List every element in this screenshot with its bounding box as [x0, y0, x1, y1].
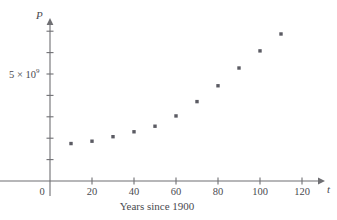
x-axis-arrow-icon	[318, 178, 325, 185]
data-point-group	[69, 32, 282, 145]
data-point	[195, 100, 198, 103]
x-tick-label-120: 120	[288, 187, 316, 198]
y-tick-label-exponent: 9	[36, 67, 40, 75]
y-tick-label-5e9: 5 × 109	[9, 68, 39, 80]
data-point	[153, 125, 156, 128]
x-axis-caption: Years since 1900	[77, 201, 237, 212]
y-tick-label-mantissa: 5 × 10	[9, 69, 36, 80]
x-axis-label: t	[327, 184, 330, 195]
x-tick-label-40: 40	[120, 187, 148, 198]
y-axis-arrow-icon	[47, 18, 54, 25]
population-scatter-figure: P t 0 5 × 109 20 40 60 80 100 120 Years …	[0, 0, 337, 220]
x-tick-label-20: 20	[78, 187, 106, 198]
data-point	[258, 49, 261, 52]
data-point	[237, 66, 240, 69]
data-point	[111, 135, 114, 138]
data-point	[279, 32, 282, 35]
data-point	[69, 142, 72, 145]
data-point	[90, 140, 93, 143]
origin-label: 0	[36, 187, 48, 198]
x-tick-label-80: 80	[204, 187, 232, 198]
x-tick-label-60: 60	[162, 187, 190, 198]
x-tick-label-100: 100	[246, 187, 274, 198]
y-axis-label: P	[36, 10, 43, 21]
data-point	[132, 130, 135, 133]
data-point	[216, 84, 219, 87]
data-point	[174, 114, 177, 117]
